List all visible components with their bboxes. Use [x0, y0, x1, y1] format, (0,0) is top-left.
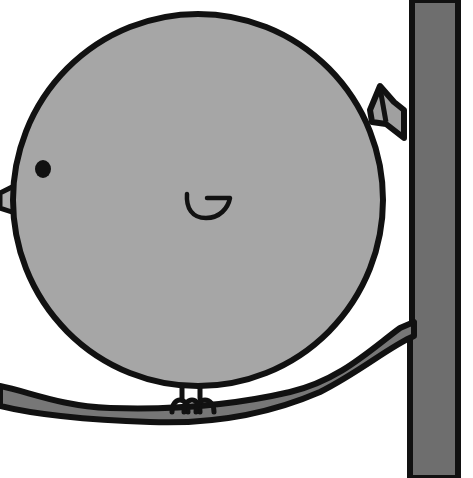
tree-trunk	[410, 0, 458, 478]
illustration-scene	[0, 0, 473, 478]
bird-illustration	[0, 0, 473, 478]
eye	[35, 160, 51, 178]
bird	[13, 14, 383, 386]
